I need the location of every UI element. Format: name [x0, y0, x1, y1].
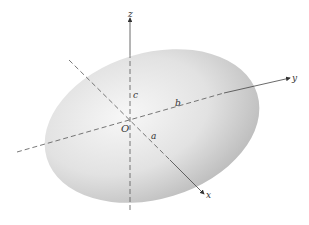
semi-axis-c-label: c: [133, 90, 138, 100]
semi-axis-a-label: a: [151, 131, 156, 141]
ellipsoid-surface: [25, 24, 278, 225]
z-axis-label: z: [127, 9, 133, 19]
origin-label: O: [121, 123, 129, 134]
x-axis-label: x: [206, 190, 211, 200]
y-axis-label: y: [291, 73, 298, 83]
ellipsoid-diagram: z y x c b a O: [0, 0, 309, 225]
semi-axis-b-label: b: [175, 98, 181, 108]
